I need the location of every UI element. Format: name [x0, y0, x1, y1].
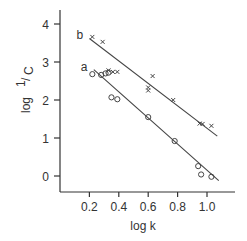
y-tick-label: 0	[42, 170, 49, 184]
series-label-a: a	[81, 60, 88, 74]
y-tick-label: 4	[42, 18, 49, 32]
fit-lines	[89, 38, 218, 180]
data-point-b	[101, 40, 105, 44]
y-axis-label-den: C	[22, 66, 36, 75]
y-axis-label-log: log	[19, 97, 33, 113]
y-axis-label: log 1 / C	[14, 66, 36, 113]
y-axis-label-slash: /	[19, 77, 33, 81]
series-label-b: b	[76, 28, 83, 42]
y-tick-label: 3	[42, 56, 49, 70]
axes	[60, 10, 235, 192]
data-point-b	[151, 74, 155, 78]
x-tick-label: 0.6	[140, 200, 157, 214]
y-tick-label: 2	[42, 94, 49, 108]
data-point-a	[209, 174, 214, 179]
data-point-a	[196, 164, 201, 169]
x-tick-label: 0.4	[110, 200, 127, 214]
data-point-b	[171, 98, 175, 102]
data-point-b	[115, 70, 119, 74]
data-points	[90, 35, 214, 179]
data-point-b	[90, 35, 94, 39]
data-point-a	[146, 115, 151, 120]
data-point-a	[199, 172, 204, 177]
y-tick-label: 1	[42, 132, 49, 146]
data-point-b	[209, 124, 213, 128]
data-point-a	[90, 72, 95, 77]
data-point-a	[115, 97, 120, 102]
x-tick-label: 1.0	[199, 200, 216, 214]
x-tick-label: 0.8	[169, 200, 186, 214]
x-tick-label: 0.2	[81, 200, 98, 214]
data-point-b	[146, 89, 150, 93]
ticks: 0.20.40.60.81.001234	[42, 18, 215, 214]
x-axis-label: log k	[130, 219, 156, 233]
data-point-a	[109, 95, 114, 100]
scatter-chart: 0.20.40.60.81.001234 log k log 1 / C ba	[0, 0, 247, 241]
